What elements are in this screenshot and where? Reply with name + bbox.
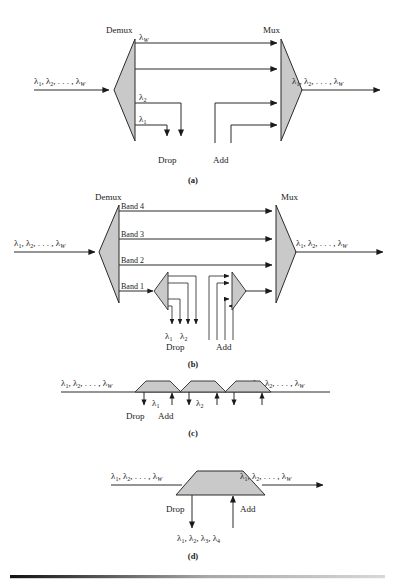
panel-b-drop-wavelength-2: λ2 [180,331,187,342]
panel-a-add-path-1 [215,103,277,143]
svg-text:λ1, λ2, λ3, λ4: λ1, λ2, λ3, λ4 [177,533,220,544]
panel-c-node-1-wavelength: λ1 [152,398,159,409]
panel-b-demux-label: Demux [95,192,122,202]
panel-b-drop-line-1 [168,306,172,324]
panel-b-caption: (b) [188,359,199,369]
panel-b-drop-line-3 [168,283,188,324]
panel-a-channel-2-label: λ2 [139,92,146,103]
panel-d-caption: (d) [188,551,199,561]
panel-a-mux-label: Mux [263,25,281,35]
panel-c-add-label: Add [158,411,174,421]
panel-a-drop-label: Drop [158,155,177,165]
oadm-figure: Demux Mux λ1, λ2, . . . , λW λW λ2 λ1 [0,0,395,586]
panel-b-inner-mux-prism [232,272,246,310]
panel-c-caption: (c) [188,428,198,438]
panel-a-demux-prism [114,39,135,141]
panel-b-drop-label: Drop [166,342,185,352]
figure-canvas: Demux Mux λ1, λ2, . . . , λW λW λ2 λ1 [0,0,395,586]
panel-d-input-label: λ1, λ2, . . . , λW [111,471,163,482]
svg-text:λ1, λ2, . . . , λW: λ1, λ2, . . . , λW [14,238,66,249]
panel-a-add-label: Add [213,155,229,165]
panel-c: λ1, λ2, . . . , λW λ1, λ2, . . . , λW λ1… [61,378,330,438]
panel-a-channel-1-drop [135,125,167,136]
panel-a: Demux Mux λ1, λ2, . . . , λW λW λ2 λ1 [34,25,380,185]
panel-b-band-3-label: Band 3 [121,230,144,239]
svg-text:λ1, λ2, . . . , λW: λ1, λ2, . . . , λW [111,471,163,482]
bottom-rule [10,575,385,578]
panel-a-caption: (a) [188,175,198,185]
panel-a-output-label: λ1, λ2, . . . , λW [292,76,344,87]
bottom-rule-bar [10,575,385,578]
panel-d-drop-label: Drop [166,504,185,514]
panel-c-node-1-trapezoid [135,381,181,392]
panel-a-channel-4-label: λW [139,32,149,43]
panel-a-input-label: λ1, λ2, . . . , λW [34,76,86,87]
panel-c-node-2-trapezoid [180,381,226,392]
panel-b-add-line-3 [225,299,229,340]
panel-b-add-label: Add [216,342,232,352]
svg-text:λ1, λ2, . . . , λW: λ1, λ2, . . . , λW [34,76,86,87]
panel-d-drop-wavelengths: λ1, λ2, λ3, λ4 [177,533,220,544]
panel-b: Demux Mux λ1, λ2, . . . , λW Band 4 Band… [14,192,383,369]
panel-b-band-2-label: Band 2 [121,256,144,265]
panel-b-output-label: λ1, λ2, . . . , λW [296,238,348,249]
panel-a-add-path-2 [231,125,277,143]
panel-c-input-label: λ1, λ2, . . . , λW [61,378,113,389]
panel-c-node-2-wavelength: λ2 [196,398,203,409]
panel-b-drop-wavelength-1: λ1 [165,331,172,342]
panel-b-add-line-4 [229,306,233,340]
panel-d-output-label: λ1, λ2, . . . , λW [240,471,292,482]
svg-text:λ1, λ2, . . . , λW: λ1, λ2, . . . , λW [240,471,292,482]
panel-d: λ1, λ2, . . . , λW λ1, λ2, . . . , λW Dr… [111,471,323,561]
panel-b-band-4-label: Band 4 [121,202,144,211]
panel-a-mux-prism [281,39,302,141]
panel-b-mux-prism [276,205,296,303]
panel-b-mux-label: Mux [281,192,299,202]
panel-b-add-line-2 [217,283,229,340]
panel-a-channel-1-label: λ1 [139,114,146,125]
svg-text:λ1, λ2, . . . , λW: λ1, λ2, . . . , λW [61,378,113,389]
panel-b-band-1-label: Band 1 [121,282,144,291]
panel-b-drop-line-2 [168,299,180,324]
panel-c-drop-label: Drop [126,411,145,421]
panel-a-demux-label: Demux [106,25,133,35]
panel-b-demux-prism [99,205,119,303]
panel-b-add-line-1 [209,276,229,340]
panel-b-input-label: λ1, λ2, . . . , λW [14,238,66,249]
svg-text:λ1, λ2, . . . , λW: λ1, λ2, . . . , λW [296,238,348,249]
svg-text:λ1, λ2, . . . , λW: λ1, λ2, . . . , λW [292,76,344,87]
panel-b-inner-demux-prism [154,272,168,310]
panel-d-add-label: Add [240,504,256,514]
